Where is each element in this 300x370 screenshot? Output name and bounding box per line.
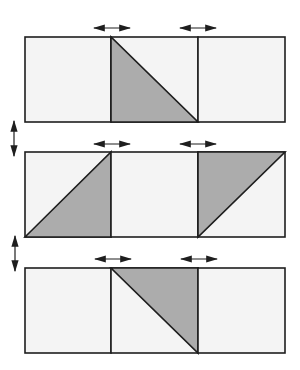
row-2 xyxy=(25,152,285,237)
row-1-cell-1 xyxy=(25,37,111,122)
row-3-cell-1 xyxy=(25,268,111,353)
row-1 xyxy=(25,37,285,122)
row-3-cell-3 xyxy=(198,268,285,353)
row-2-cell-2 xyxy=(111,152,198,237)
vertical-swap-arrows xyxy=(14,121,15,271)
row-3 xyxy=(25,268,285,353)
patchwork-diagram xyxy=(0,0,300,370)
row-1-cell-3 xyxy=(198,37,285,122)
